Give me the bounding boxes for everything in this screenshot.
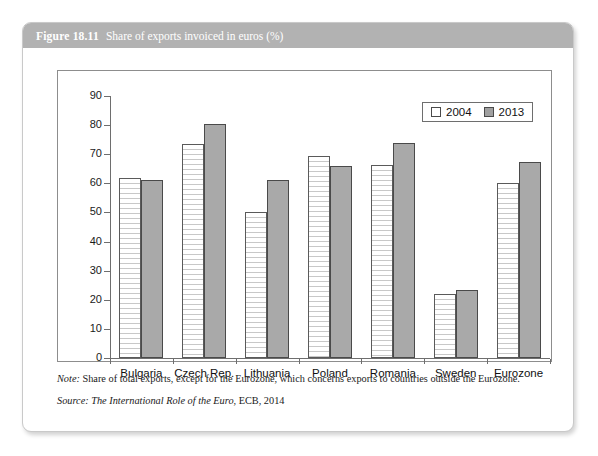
y-axis-label: 20	[62, 293, 102, 305]
bar-bulgaria-2013[interactable]	[141, 180, 163, 358]
y-axis-tick	[104, 125, 110, 126]
y-axis-label: 50	[62, 205, 102, 217]
bar-lithuania-2004[interactable]	[245, 212, 267, 358]
y-axis-tick	[104, 271, 110, 272]
bar-group	[119, 71, 163, 358]
x-axis-tick	[361, 359, 362, 364]
legend-label-2004: 2004	[446, 106, 472, 118]
bar-bulgaria-2004[interactable]	[119, 178, 141, 358]
legend-item-2004: 2004	[431, 106, 472, 118]
y-axis-tick	[104, 300, 110, 301]
figure-source: Source: The International Role of the Eu…	[57, 395, 557, 407]
x-axis-tick	[110, 359, 111, 364]
bar-group	[245, 71, 289, 358]
x-axis-tick	[173, 359, 174, 364]
y-axis-label: 90	[62, 89, 102, 101]
source-label: Source:	[57, 395, 89, 406]
bar-poland-2013[interactable]	[330, 166, 352, 358]
bar-group	[308, 71, 352, 358]
y-axis-label: 10	[62, 322, 102, 334]
bar-czech-rep-2004[interactable]	[182, 144, 204, 358]
bar-sweden-2013[interactable]	[456, 290, 478, 358]
x-axis-line	[110, 358, 550, 359]
y-axis-label: 0	[62, 351, 102, 363]
bar-group	[371, 71, 415, 358]
y-axis-label: 40	[62, 235, 102, 247]
figure-note: Note: Share of total exports, except for…	[57, 373, 557, 385]
bar-lithuania-2013[interactable]	[267, 180, 289, 358]
chart-plot-area: 0102030405060708090 BulgariaCzech Rep.Li…	[57, 70, 552, 362]
y-axis-label: 30	[62, 264, 102, 276]
bar-group	[182, 71, 226, 358]
bar-eurozone-2013[interactable]	[519, 162, 541, 358]
legend-label-2013: 2013	[499, 106, 525, 118]
y-axis-tick	[104, 242, 110, 243]
y-axis-tick	[104, 96, 110, 97]
y-axis-label: 60	[62, 176, 102, 188]
y-axis-tick	[104, 154, 110, 155]
legend-swatch-2013-icon	[484, 107, 494, 117]
bar-poland-2004[interactable]	[308, 156, 330, 358]
figure-title: Share of exports invoiced in euros (%)	[106, 30, 284, 42]
legend-item-2013: 2013	[484, 106, 525, 118]
x-axis-tick	[236, 359, 237, 364]
legend-swatch-2004-icon	[431, 107, 441, 117]
bar-eurozone-2004[interactable]	[497, 183, 519, 358]
y-axis-label: 80	[62, 118, 102, 130]
y-axis-line	[110, 96, 111, 359]
source-title: The International Role of the Euro	[91, 395, 233, 406]
bar-czech-rep-2013[interactable]	[204, 124, 226, 358]
chart-legend: 2004 2013	[422, 102, 533, 122]
figure-card: Figure 18.11 Share of exports invoiced i…	[22, 22, 574, 432]
bar-sweden-2004[interactable]	[434, 294, 456, 358]
note-text: Share of total exports, except for the E…	[82, 373, 519, 384]
figure-header: Figure 18.11 Share of exports invoiced i…	[23, 23, 573, 48]
bar-romania-2013[interactable]	[393, 143, 415, 358]
y-axis-label: 70	[62, 147, 102, 159]
note-label: Note:	[57, 373, 80, 384]
x-axis-tick	[299, 359, 300, 364]
y-axis-tick	[104, 212, 110, 213]
bar-romania-2004[interactable]	[371, 165, 393, 358]
chart-canvas: 0102030405060708090 BulgariaCzech Rep.Li…	[58, 71, 551, 361]
x-axis-tick	[424, 359, 425, 364]
y-axis-tick	[104, 183, 110, 184]
x-axis-tick	[550, 359, 551, 364]
figure-number: Figure 18.11	[36, 30, 99, 42]
y-axis-tick	[104, 329, 110, 330]
source-rest: , ECB, 2014	[234, 395, 285, 406]
x-axis-tick	[487, 359, 488, 364]
